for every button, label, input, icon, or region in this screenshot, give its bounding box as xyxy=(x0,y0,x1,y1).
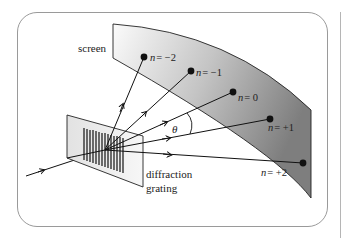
diffraction-diagram: screen diffraction grating θ n= −2 n= −1… xyxy=(0,0,349,238)
order-label-minus-2: n= −2 xyxy=(150,52,176,63)
grating-label-line1: diffraction xyxy=(146,168,193,180)
screen-label: screen xyxy=(78,42,107,54)
order-label-minus-1: n= −1 xyxy=(196,67,222,78)
angle-theta-label: θ xyxy=(172,123,178,135)
order-label-0: n= 0 xyxy=(238,92,258,103)
order-label-plus-1: n= +1 xyxy=(268,122,294,133)
order-label-plus-2: n= +2 xyxy=(261,167,287,178)
grating-label-line2: grating xyxy=(146,182,178,194)
